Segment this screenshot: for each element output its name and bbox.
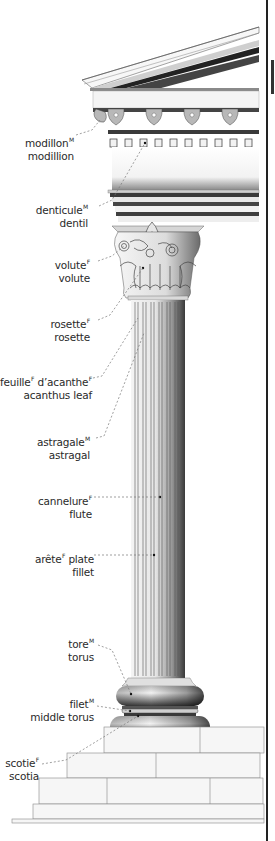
pediment [82,27,259,91]
label-dentil: denticuleM dentil [36,200,88,230]
gender-superscript: M [69,136,74,143]
label-flute: cannelureF flute [38,491,92,521]
label-fr: feuille [0,376,31,388]
label-volute: voluteF volute [55,255,90,285]
label-en: middle torus [30,711,94,724]
label-en: fillet [35,566,94,579]
label-fr: plate [65,553,94,565]
label-rosette: rosetteF rosette [50,314,90,344]
label-fr: denticule [36,204,83,216]
capital [112,222,204,300]
label-en: acanthus leaf [0,389,92,402]
column-shaft [131,300,185,678]
label-en: flute [38,508,92,521]
label-en: rosette [50,331,90,344]
page-margin-rule [266,0,268,841]
gender-superscript: M [89,637,94,644]
label-fr: rosette [50,318,86,330]
gender-superscript: M [83,203,88,210]
entablature [108,147,259,222]
dentil-row [108,134,259,147]
label-fr: filet [69,698,88,710]
label-en: volute [55,272,90,285]
gender-superscript: F [89,375,92,382]
label-acanthus-leaf: feuilleF d’acantheF acanthus leaf [0,372,92,402]
label-en: torus [68,651,94,664]
label-torus: toreM torus [68,634,94,664]
label-middle-torus: filetM middle torus [30,694,94,724]
gender-superscript: F [89,494,92,501]
label-en: dentil [36,217,88,230]
label-fr: tore [68,638,88,650]
gender-superscript: M [89,697,94,704]
label-fr: astragale [37,436,84,448]
page-tab-marker [271,60,274,94]
gender-superscript: M [85,435,90,442]
label-fillet: arêteF plate fillet [35,549,94,579]
gender-superscript: F [87,258,90,265]
label-fr: modillon [25,137,69,149]
label-fr: cannelure [38,495,88,507]
label-en: scotia [5,770,39,783]
label-modillion: modillonM modillion [25,133,74,163]
label-scotia: scotieF scotia [5,753,39,783]
label-fr: volute [55,259,87,271]
gender-superscript: F [36,756,39,763]
label-fr: scotie [5,757,35,769]
label-fr: arête [35,553,62,565]
label-astragal: astragaleM astragal [37,432,90,462]
label-en: modillion [25,150,74,163]
stylobate-steps [12,727,264,823]
cornice [93,91,259,134]
label-en: astragal [37,449,90,462]
label-fr: d’acanthe [34,376,88,388]
gender-superscript: F [87,317,90,324]
